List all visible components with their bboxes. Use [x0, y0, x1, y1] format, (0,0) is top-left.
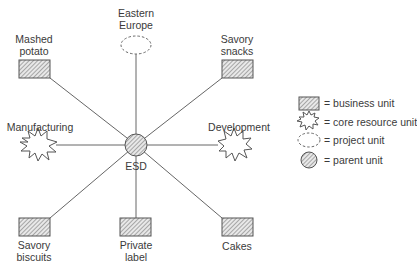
node-label-private-label: Private label: [106, 239, 166, 263]
legend-business-unit-icon: [299, 97, 319, 110]
business-unit-cakes-icon: [222, 218, 253, 236]
parent-unit-esd-icon: [125, 134, 147, 156]
node-label-manufacturing: Manufacturing: [0, 121, 80, 133]
node-label-esd: ESD: [116, 160, 156, 172]
business-unit-private-label-icon: [120, 218, 151, 236]
legend-business-unit-text: = business unit: [324, 97, 394, 109]
connector-savory-biscuits: [50, 145, 136, 218]
label-line: Mashed: [4, 33, 64, 45]
business-unit-savory-biscuits-icon: [19, 218, 50, 236]
connector-mashed-potato: [50, 78, 136, 145]
node-label-savory-biscuits: Savory biscuits: [4, 239, 64, 263]
node-label-cakes: Cakes: [207, 240, 267, 252]
legend-parent-unit-text: = parent unit: [324, 154, 383, 166]
connector-savory-snacks: [136, 78, 222, 145]
legend-project-unit-text: = project unit: [324, 134, 384, 146]
legend-project-unit-icon: [298, 133, 320, 147]
label-line: label: [106, 251, 166, 263]
label-line: Europe: [106, 19, 166, 31]
legend-core-resource-text: = core resource unit: [324, 116, 417, 128]
node-label-development: Development: [199, 121, 279, 133]
label-line: Eastern: [106, 7, 166, 19]
connector-cakes: [136, 145, 222, 218]
label-line: biscuits: [4, 251, 64, 263]
business-unit-savory-snacks-icon: [222, 60, 253, 78]
label-line: snacks: [207, 45, 267, 57]
label-line: Savory: [207, 33, 267, 45]
legend-parent-unit-icon: [301, 152, 317, 168]
business-unit-mashed-potato-icon: [19, 60, 50, 78]
label-line: Private: [106, 239, 166, 251]
node-label-eastern-europe: Eastern Europe: [106, 7, 166, 31]
node-label-savory-snacks: Savory snacks: [207, 33, 267, 57]
label-line: Savory: [4, 239, 64, 251]
label-line: potato: [4, 45, 64, 57]
node-label-mashed-potato: Mashed potato: [4, 33, 64, 57]
project-unit-eastern-europe-icon: [121, 36, 151, 54]
legend-core-resource-icon: [297, 111, 319, 130]
